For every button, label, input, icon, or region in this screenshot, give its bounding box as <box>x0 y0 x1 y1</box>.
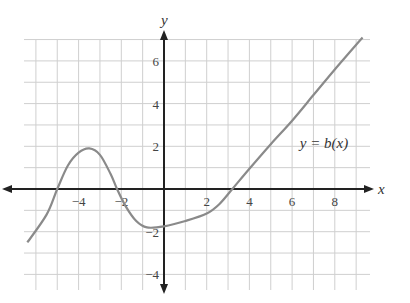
x-tick-label: 2 <box>203 194 210 209</box>
x-axis-label: x <box>377 181 385 197</box>
x-tick-label: −4 <box>72 194 86 209</box>
x-tick-label: 8 <box>332 194 339 209</box>
y-axis-up-arrow-icon <box>160 30 168 40</box>
y-tick-label: 2 <box>153 139 160 154</box>
axes <box>2 30 374 294</box>
x-axis-right-arrow-icon <box>364 185 374 193</box>
grid-lines <box>24 40 370 290</box>
x-axis-left-arrow-icon <box>2 185 12 193</box>
function-graph: −4−22468642−2−4 y = b(x) x y <box>0 0 410 303</box>
y-axis-label: y <box>159 12 168 28</box>
y-tick-label: 4 <box>153 97 160 112</box>
y-tick-label: −4 <box>145 267 159 282</box>
function-label: y = b(x) <box>298 135 348 152</box>
x-tick-label: 6 <box>289 194 296 209</box>
y-tick-label: 6 <box>153 54 160 69</box>
y-axis-down-arrow-icon <box>160 284 168 294</box>
x-tick-label: 4 <box>246 194 253 209</box>
